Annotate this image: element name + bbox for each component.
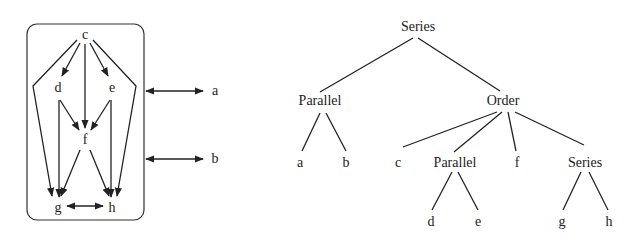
edge-c-e <box>90 43 108 76</box>
tree-leaf-f: f <box>515 155 520 170</box>
tree-leaf-a: a <box>297 155 304 170</box>
graph-node-c: c <box>82 27 88 42</box>
edge-f-h <box>90 150 109 196</box>
tree-leaf-c: c <box>395 155 401 170</box>
tree-edge-parallel-a <box>302 113 320 151</box>
dependency-graph: c d e f g h a b <box>27 24 219 220</box>
tree-node-series-2: Series <box>568 155 602 170</box>
tree-edge-parallel-d <box>432 172 452 210</box>
graph-node-h: h <box>109 200 116 215</box>
tree-edge-series-g <box>563 172 581 210</box>
tree-leaf-h: h <box>606 214 613 229</box>
tree-leaf-b: b <box>343 155 350 170</box>
tree-edge-order-c <box>403 112 497 147</box>
edge-f-g <box>61 150 80 196</box>
decomposition-tree: Series Parallel Order a b c Parallel f S… <box>297 19 613 229</box>
tree-edge-parallel-b <box>326 113 346 151</box>
edge-c-d <box>62 43 80 76</box>
tree-leaf-e: e <box>475 214 481 229</box>
tree-edge-root-parallel <box>320 38 413 92</box>
tree-edge-order-f <box>508 112 516 151</box>
edge-e-f <box>91 100 110 130</box>
diagram-canvas: c d e f g h a b Series Parallel Order a … <box>0 0 630 240</box>
graph-node-d: d <box>55 80 62 95</box>
graph-node-a: a <box>212 83 219 98</box>
tree-edge-order-series <box>515 112 584 145</box>
tree-node-parallel-2: Parallel <box>434 155 477 170</box>
graph-node-g: g <box>55 200 62 215</box>
edge-d-f <box>60 100 79 130</box>
tree-node-parallel: Parallel <box>299 93 342 108</box>
tree-node-order: Order <box>487 93 520 108</box>
graph-node-b: b <box>212 151 219 166</box>
tree-leaf-d: d <box>428 214 435 229</box>
tree-leaf-g: g <box>559 214 566 229</box>
graph-node-f: f <box>83 132 88 147</box>
tree-edge-series-h <box>589 172 608 210</box>
tree-edge-order-parallel <box>454 112 502 152</box>
tree-edge-parallel-e <box>458 172 478 210</box>
graph-node-e: e <box>109 80 115 95</box>
tree-node-root-series: Series <box>401 19 435 34</box>
tree-edge-root-order <box>418 38 500 91</box>
